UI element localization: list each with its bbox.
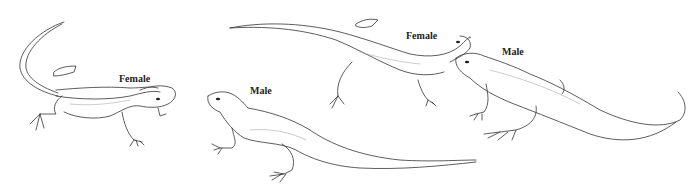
lizard-illustration: Female Male Female Male: [0, 0, 700, 188]
label-female-right: Female: [406, 30, 437, 41]
lizard-drawings: [0, 0, 700, 188]
label-female-left: Female: [119, 73, 150, 84]
male-lizard-right: [456, 53, 685, 140]
label-male-right: Male: [502, 46, 524, 57]
label-male-center: Male: [250, 85, 272, 96]
female-lizard-left: [20, 22, 176, 146]
